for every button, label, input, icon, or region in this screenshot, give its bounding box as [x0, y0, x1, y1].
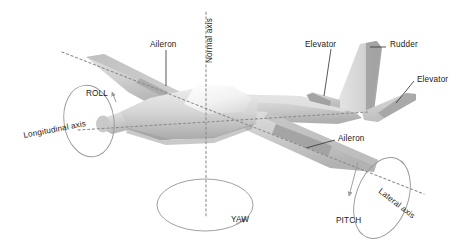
- roll-arrowhead: [112, 92, 116, 102]
- propeller-spinner: [96, 116, 110, 133]
- rudder-surface: [366, 41, 382, 112]
- label-elevator-right: Elevator: [417, 75, 448, 84]
- main-fuselage: [96, 84, 258, 145]
- label-aileron-right: Aileron: [338, 134, 365, 143]
- elevator-left-leader: [324, 49, 331, 96]
- label-pitch: PITCH: [336, 216, 361, 225]
- diagram-canvas: Aileron Elevator Rudder Elevator Aileron…: [0, 0, 468, 245]
- aircraft-illustration: [86, 41, 416, 172]
- aircraft-axes-diagram: Aileron Elevator Rudder Elevator Aileron…: [0, 0, 468, 245]
- label-normal-axis: Normal axis: [205, 18, 214, 63]
- label-elevator-left: Elevator: [305, 40, 336, 49]
- label-lateral-axis: Lateral axis: [377, 186, 417, 220]
- label-roll: ROLL: [86, 89, 108, 98]
- vertical-stabilizer: [336, 41, 382, 112]
- label-rudder: Rudder: [390, 40, 418, 49]
- label-longitudinal-axis: Longitudinal axis: [23, 119, 87, 140]
- label-yaw: YAW: [231, 215, 249, 224]
- label-aileron-left: Aileron: [150, 40, 177, 49]
